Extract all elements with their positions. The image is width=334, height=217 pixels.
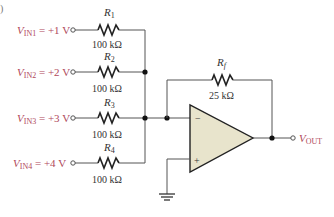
r1-value: 100 kΩ — [92, 39, 122, 50]
junction-dot — [269, 135, 274, 140]
r2-resistor — [98, 67, 119, 77]
input-branch-3: VIN3 = +3 V R3 100 kΩ — [17, 96, 190, 140]
r4-name: R4 — [103, 141, 115, 155]
vin2-terminal — [71, 70, 75, 74]
vin3-terminal — [71, 116, 75, 120]
op-amp: − + — [190, 105, 253, 172]
rf-name: Rf — [216, 56, 228, 70]
input-branch-4: VIN4 = +4 V R4 100 kΩ — [13, 141, 145, 185]
vin2-label: VIN2 = +2 V — [17, 66, 70, 80]
ground-icon — [159, 194, 175, 200]
vin3-label: VIN3 = +3 V — [17, 112, 70, 126]
vout-terminal — [291, 136, 295, 140]
inverting-input-sign: − — [195, 113, 201, 124]
junction-dot — [142, 115, 147, 120]
r2-value: 100 kΩ — [92, 83, 122, 94]
vin1-label: VIN1 = +1 V — [17, 24, 70, 38]
rf-value: 25 kΩ — [209, 90, 234, 101]
figure-marker: ) — [0, 3, 3, 15]
r1-name: R1 — [103, 6, 115, 20]
r3-resistor — [98, 113, 119, 123]
vin4-label: VIN4 = +4 V — [13, 157, 66, 171]
r4-value: 100 kΩ — [92, 174, 122, 185]
rf-resistor — [212, 75, 233, 85]
vin4-terminal — [71, 161, 75, 165]
input-branch-2: VIN2 = +2 V R2 100 kΩ — [17, 50, 145, 94]
input-branch-1: VIN1 = +1 V R1 100 kΩ — [17, 6, 145, 50]
vin1-terminal — [71, 28, 75, 32]
junction-dot — [142, 69, 147, 74]
summing-amplifier-schematic: ) VIN1 = +1 V R1 100 kΩ VIN2 = +2 V R2 1… — [0, 0, 334, 217]
r1-resistor — [98, 25, 119, 35]
r3-name: R3 — [103, 96, 115, 110]
r2-name: R2 — [103, 50, 115, 64]
vout-label: VOUT — [299, 132, 322, 146]
noninverting-input-sign: + — [194, 155, 200, 166]
r3-value: 100 kΩ — [92, 129, 122, 140]
r4-resistor — [98, 158, 119, 168]
